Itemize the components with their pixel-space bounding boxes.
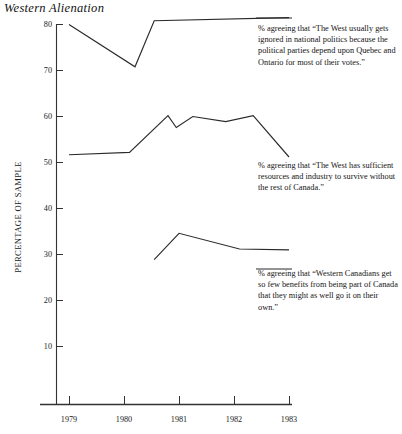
plot-area xyxy=(0,0,402,434)
series-line-ignored-politics xyxy=(69,18,289,67)
x-tick-marks xyxy=(70,396,290,404)
series-line-go-it-alone xyxy=(154,233,289,259)
western-alienation-figure: Western Alienation PERCENTAGE OF SAMPLE … xyxy=(0,0,402,434)
series-line-sufficient-resources xyxy=(69,116,289,157)
y-tick-marks xyxy=(57,25,64,347)
